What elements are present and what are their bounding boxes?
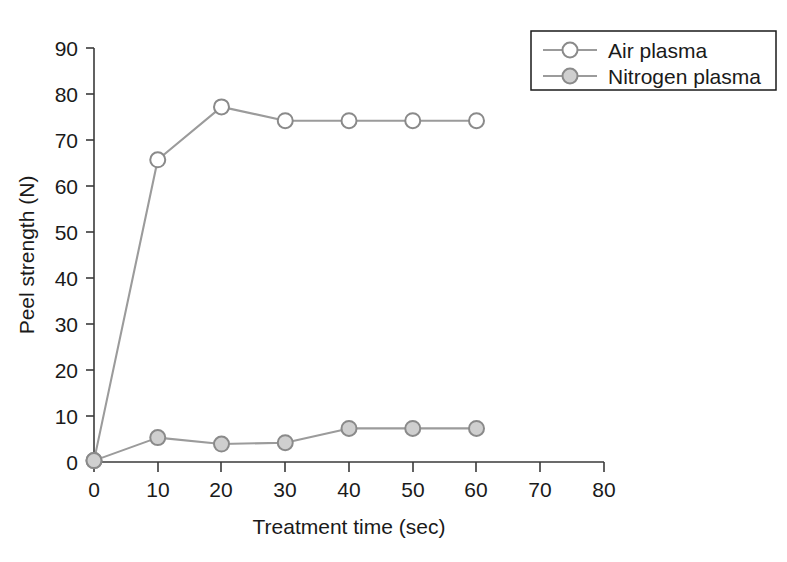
y-tick-label: 80 — [55, 83, 78, 106]
series-nitrogen-plasma — [87, 421, 485, 468]
y-axis-title: Peel strength (N) — [15, 176, 38, 335]
y-tick-label: 40 — [55, 267, 78, 290]
data-point-marker[interactable] — [405, 421, 420, 436]
x-tick-label: 40 — [337, 478, 360, 501]
x-tick-label: 60 — [464, 478, 487, 501]
legend-marker-filled-circle — [563, 69, 578, 84]
y-tick-label: 50 — [55, 221, 78, 244]
data-point-marker[interactable] — [469, 113, 484, 128]
y-tick-labels: 90 80 70 60 50 40 30 20 10 0 — [55, 37, 78, 474]
y-tick-label: 60 — [55, 175, 78, 198]
y-tick-label: 20 — [55, 359, 78, 382]
legend: Air plasma Nitrogen plasma — [531, 31, 776, 90]
legend-label-nitrogen-plasma: Nitrogen plasma — [608, 65, 761, 88]
x-tick-label: 20 — [209, 478, 232, 501]
y-tick-label: 90 — [55, 37, 78, 60]
x-tick-labels: 0 10 20 30 40 50 60 70 80 — [88, 478, 616, 501]
legend-label-air-plasma: Air plasma — [608, 39, 708, 62]
y-tick-marks — [86, 48, 94, 462]
line-chart: 90 80 70 60 50 40 30 20 10 0 0 10 — [0, 0, 787, 562]
data-point-marker[interactable] — [342, 113, 357, 128]
data-point-marker[interactable] — [278, 113, 293, 128]
figure-container: 90 80 70 60 50 40 30 20 10 0 0 10 — [0, 0, 787, 562]
series-air-plasma — [87, 99, 485, 468]
data-point-marker[interactable] — [150, 152, 165, 167]
x-tick-label: 30 — [273, 478, 296, 501]
y-tick-label: 10 — [55, 405, 78, 428]
x-tick-label: 50 — [401, 478, 424, 501]
x-tick-label: 70 — [528, 478, 551, 501]
legend-marker-open-circle — [563, 43, 578, 58]
x-tick-marks — [94, 462, 604, 472]
data-point-marker[interactable] — [342, 421, 357, 436]
data-point-marker[interactable] — [278, 435, 293, 450]
x-tick-label: 0 — [88, 478, 100, 501]
data-point-marker[interactable] — [150, 430, 165, 445]
data-point-marker[interactable] — [214, 437, 229, 452]
y-tick-label: 0 — [66, 451, 78, 474]
data-point-marker[interactable] — [469, 421, 484, 436]
data-series-layer — [87, 99, 485, 468]
x-tick-label: 10 — [146, 478, 169, 501]
data-point-marker[interactable] — [405, 113, 420, 128]
data-point-marker[interactable] — [87, 453, 102, 468]
x-tick-label: 80 — [592, 478, 615, 501]
axes-group — [94, 48, 604, 462]
y-tick-label: 30 — [55, 313, 78, 336]
data-point-marker[interactable] — [214, 99, 229, 114]
y-tick-label: 70 — [55, 129, 78, 152]
x-axis-title: Treatment time (sec) — [253, 515, 446, 538]
